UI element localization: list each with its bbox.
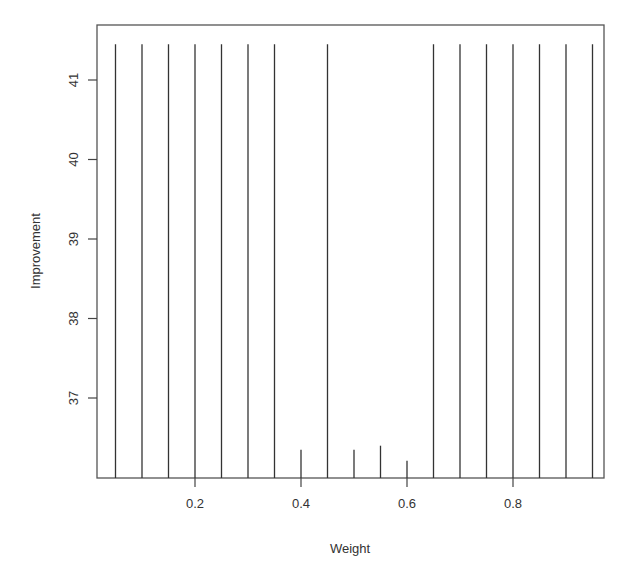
- y-axis-title: Improvement: [28, 213, 43, 289]
- bar-series: [116, 44, 593, 478]
- x-tick-label: 0.4: [292, 496, 310, 511]
- chart: 0.20.40.60.8 3738394041 Weight Improveme…: [0, 0, 627, 573]
- y-tick-label: 40: [66, 152, 81, 166]
- x-axis: 0.20.40.60.8: [186, 478, 522, 511]
- x-axis-title: Weight: [330, 541, 371, 556]
- x-tick-label: 0.8: [504, 496, 522, 511]
- y-axis: 3738394041: [66, 73, 97, 405]
- plot-frame: [97, 25, 604, 478]
- y-tick-label: 39: [66, 232, 81, 246]
- x-tick-label: 0.2: [186, 496, 204, 511]
- y-tick-label: 41: [66, 73, 81, 87]
- x-tick-label: 0.6: [398, 496, 416, 511]
- y-tick-label: 37: [66, 391, 81, 405]
- y-tick-label: 38: [66, 311, 81, 325]
